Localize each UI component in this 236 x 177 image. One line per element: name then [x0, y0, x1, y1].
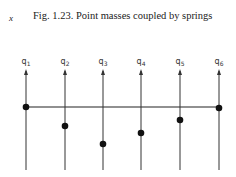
arrow-up-icon: [24, 69, 28, 75]
coordinate-label: q4: [137, 57, 146, 67]
arrow-up-icon: [63, 69, 67, 75]
point-mass: [216, 105, 223, 112]
coordinate-label: q2: [61, 57, 70, 67]
arrow-up-icon: [101, 69, 105, 75]
point-mass: [138, 130, 145, 137]
spring-mass-diagram: q1q2q3q4q5q6: [0, 0, 236, 177]
point-mass: [177, 117, 184, 124]
point-mass: [100, 141, 107, 148]
coordinate-axis-q6: q6: [215, 57, 224, 170]
coordinate-axis-q1: q1: [22, 57, 31, 170]
point-mass: [23, 104, 30, 111]
arrow-up-icon: [217, 69, 221, 75]
coordinate-axis-q4: q4: [137, 57, 146, 170]
coordinate-axis-q3: q3: [99, 57, 108, 170]
arrow-up-icon: [178, 69, 182, 75]
coordinate-axis-q5: q5: [176, 57, 185, 170]
arrow-up-icon: [139, 69, 143, 75]
point-mass: [62, 123, 69, 130]
coordinate-label: q1: [22, 57, 31, 67]
coordinate-axis-q2: q2: [61, 57, 70, 170]
coordinate-label: q5: [176, 57, 185, 67]
coordinate-label: q3: [99, 57, 108, 67]
coordinate-label: q6: [215, 57, 224, 67]
